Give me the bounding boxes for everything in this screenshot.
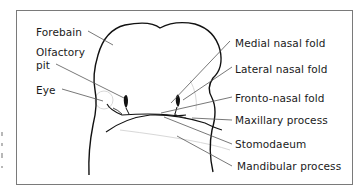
label-lateral-nasal-fold: Lateral nasal fold bbox=[235, 63, 328, 75]
label-forebrain: Forebain bbox=[36, 26, 82, 38]
head-outline bbox=[89, 23, 221, 175]
label-olfactory-pit-line2: pit bbox=[36, 59, 50, 71]
label-eye: Eye bbox=[36, 84, 56, 96]
label-fronto-nasal-fold: Fronto-nasal fold bbox=[235, 92, 325, 104]
label-maxillary-process: Maxillary process bbox=[235, 114, 328, 126]
mandibular-arch bbox=[106, 115, 222, 132]
label-olfactory-pit: Olfactory bbox=[36, 46, 85, 58]
label-stomodaeum: Stomodaeum bbox=[235, 138, 306, 150]
label-mandibular-process: Mandibular process bbox=[237, 160, 341, 172]
olfactory-pit-left-icon bbox=[124, 95, 128, 108]
label-medial-nasal-fold: Medial nasal fold bbox=[235, 37, 325, 49]
